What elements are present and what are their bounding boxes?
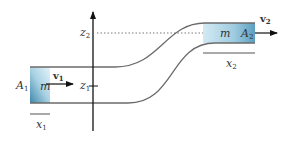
label-a2: A2	[241, 28, 253, 41]
label-m-left: m	[40, 81, 50, 92]
pipe-bottom-wall	[30, 43, 255, 103]
label-x2: x2	[226, 58, 237, 71]
label-v1: v1	[53, 71, 64, 82]
label-z2: z2	[80, 27, 90, 40]
label-x1: x1	[36, 119, 47, 132]
label-z1: z1	[80, 80, 90, 93]
label-a1: A1	[16, 80, 28, 93]
label-v2: v2	[260, 14, 271, 25]
label-m-right: m	[220, 28, 230, 39]
